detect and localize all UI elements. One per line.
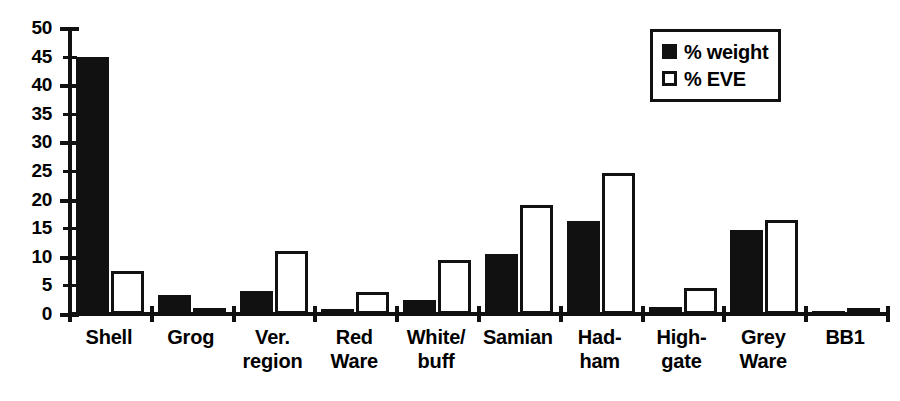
y-tick-label-45: 45 [8,47,52,66]
x-axis-label-2: Ver.region [232,326,314,373]
x-axis-label-3: RedWare [313,326,395,373]
hollow-square-icon [662,71,677,86]
x-tick-3 [313,306,317,322]
x-axis-label-0: Shell [68,326,150,350]
bar-eve [520,205,553,314]
y-tick-label-15: 15 [8,218,52,237]
x-axis-label-9: BB1 [804,326,886,350]
bar-chart: 50454035302520151050 ShellGrogVer.region… [0,0,900,401]
x-tick-8 [722,306,726,322]
x-tick-9 [804,306,808,322]
x-axis-label-7: High-gate [641,326,723,373]
legend-label: % EVE [684,69,746,89]
chart-legend: % weight% EVE [650,29,781,102]
y-tick-label-35: 35 [8,104,52,123]
x-axis-label-line: Ware [722,350,804,374]
bar-eve [765,220,798,314]
x-axis-label-line: Ver. [232,326,314,350]
x-axis-label-line: buff [395,350,477,374]
x-axis-label-5: Samian [477,326,559,350]
y-tick-label-5: 5 [8,275,52,294]
y-tick-label-20: 20 [8,190,52,209]
y-tick-label-40: 40 [8,75,52,94]
x-axis-labels: ShellGrogVer.regionRedWareWhite/buffSami… [68,326,886,396]
x-axis-label-line: Grog [150,326,232,350]
x-tick-5 [477,306,481,322]
x-axis-label-8: GreyWare [722,326,804,373]
bar-eve [438,260,471,314]
x-axis-label-6: Had-ham [559,326,641,373]
bar-group [804,28,886,314]
bar-eve [111,271,144,314]
x-axis-label-line: Red [313,326,395,350]
x-axis-label-line: region [232,350,314,374]
x-tick-4 [395,306,399,322]
bar-group [150,28,232,314]
x-tick-2 [232,306,236,322]
y-tick-label-25: 25 [8,161,52,180]
bar-weight [567,221,600,314]
bar-eve [602,173,635,314]
y-tick-label-50: 50 [8,18,52,37]
x-axis-label-line: BB1 [804,326,886,350]
bar-weight [485,254,518,314]
x-axis-label-1: Grog [150,326,232,350]
bar-group [477,28,559,314]
x-axis-label-line: ham [559,350,641,374]
x-axis-label-4: White/buff [395,326,477,373]
legend-label: % weight [684,42,768,62]
y-tick-label-30: 30 [8,132,52,151]
x-tick-0 [68,306,72,322]
bar-weight [76,57,109,314]
x-axis-label-line: White/ [395,326,477,350]
bar-eve [275,251,308,314]
x-axis-label-line: Samian [477,326,559,350]
bar-weight [730,230,763,314]
y-tick-label-10: 10 [8,247,52,266]
bar-group [68,28,150,314]
bar-group [232,28,314,314]
x-axis-label-line: Had- [559,326,641,350]
bar-group [313,28,395,314]
bar-weight [240,291,273,314]
x-tick-end [886,306,890,322]
x-axis-label-line: High- [641,326,723,350]
legend-entry: % weight [662,38,768,65]
x-axis-label-line: gate [641,350,723,374]
x-axis-label-line: Shell [68,326,150,350]
y-tick-label-0: 0 [8,304,52,323]
x-tick-7 [641,306,645,322]
x-axis-label-line: Grey [722,326,804,350]
x-tick-6 [559,306,563,322]
bar-eve [356,292,389,314]
filled-square-icon [662,44,677,59]
x-tick-1 [150,306,154,322]
legend-entry: % EVE [662,65,768,92]
bar-group [559,28,641,314]
x-axis-label-line: Ware [313,350,395,374]
bar-group [395,28,477,314]
bar-eve [684,288,717,314]
